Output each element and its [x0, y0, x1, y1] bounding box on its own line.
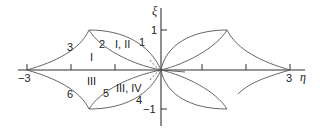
curve-6-mirror-partial	[238, 70, 290, 94]
curve-label-1: 1	[139, 36, 145, 48]
tick-label-eta-neg3: −3	[18, 72, 31, 84]
region-label-III: III	[87, 75, 96, 87]
curve-label-2: 2	[99, 38, 105, 50]
xi-axis-label: ξ	[152, 4, 158, 18]
diagram: −3 3 1 −1 ξ η 3 2 1 6 5 4 I I, II III II…	[0, 0, 320, 132]
tick-label-xi-1: 1	[151, 24, 157, 36]
curve-6	[27, 70, 89, 109]
curve-1	[89, 30, 161, 70]
region-label-I-II: I, II	[115, 38, 130, 50]
curve-label-3: 3	[67, 41, 73, 53]
curve-4-mirror	[161, 70, 227, 109]
region-label-I: I	[90, 51, 93, 63]
curve-label-6: 6	[67, 88, 73, 100]
tick-label-eta-3: 3	[286, 72, 292, 84]
tick-label-xi-neg1: −1	[143, 103, 156, 115]
eta-axis-label: η	[300, 70, 306, 84]
phase-diagram: −3 3 1 −1 ξ η 3 2 1 6 5 4 I I, II III II…	[0, 0, 320, 132]
curve-label-5: 5	[103, 87, 109, 99]
region-label-III-IV: III, IV	[116, 82, 142, 94]
curve-3-mirror	[227, 30, 290, 70]
curve-label-4: 4	[136, 94, 142, 106]
curve-3	[27, 30, 89, 70]
curve-1-mirror	[161, 30, 227, 70]
